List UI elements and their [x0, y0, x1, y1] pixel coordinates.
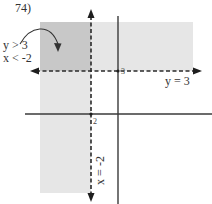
point-x-axis-at-neg2: [89, 112, 92, 115]
inequality-x-less-than-neg2: x < -2: [3, 52, 32, 65]
tick-label-y-3: 3: [121, 67, 125, 76]
solution-region-overlap: [40, 22, 91, 71]
arrow-down-icon: [88, 193, 95, 202]
arrow-left-icon: [30, 68, 39, 75]
tick-label-x-2: 2: [93, 117, 97, 126]
shaded-region-x-less-than-neg2: [40, 71, 91, 193]
arrow-right-icon: [193, 68, 202, 75]
arrow-up-icon: [88, 9, 95, 18]
label-x-equals-neg2: x = -2: [94, 156, 107, 185]
shaded-region-y-greater-than-3: [91, 22, 193, 71]
label-y-equals-3: y = 3: [165, 75, 190, 88]
problem-number: 74): [15, 2, 31, 15]
point-y-axis-at-3: [116, 69, 119, 72]
